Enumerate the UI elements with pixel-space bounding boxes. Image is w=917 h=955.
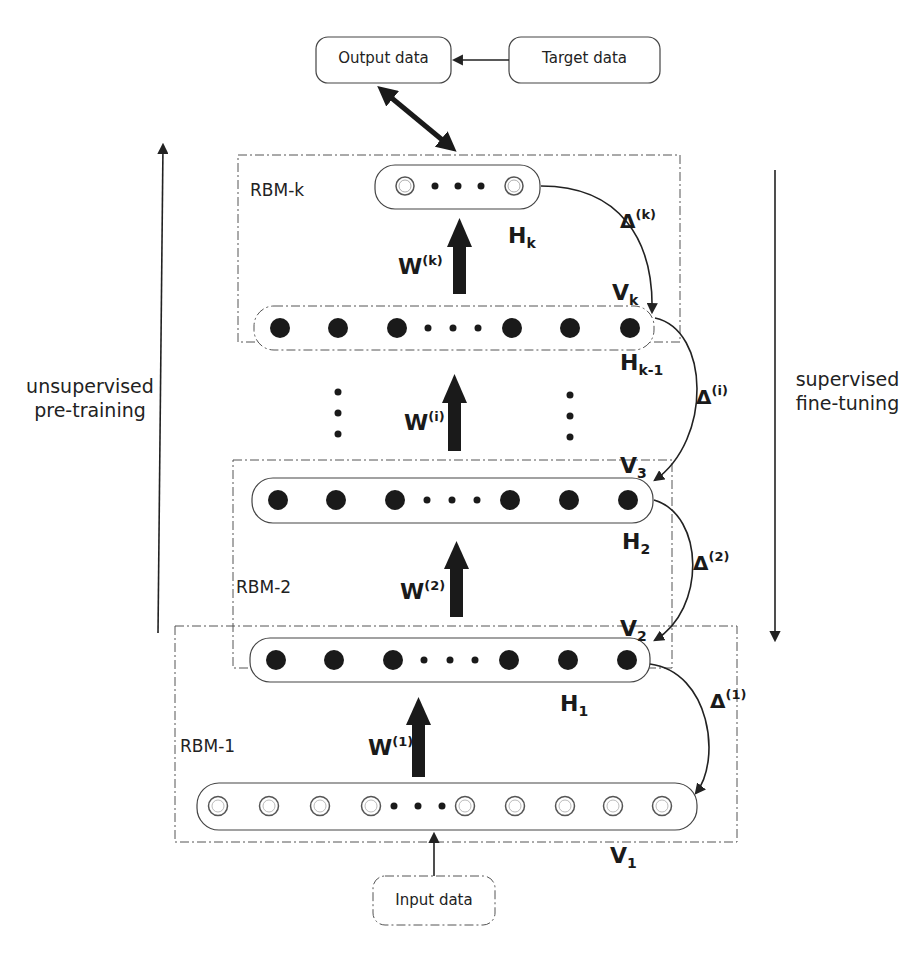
label-wk: W(k) (398, 254, 443, 278)
diagram-canvas (0, 0, 917, 955)
layer-h1 (250, 638, 650, 682)
weight-arrow-2 (444, 541, 469, 617)
label-hk-1: Hk-1 (620, 352, 663, 377)
label-delta-2: Δ(2) (693, 550, 729, 573)
rbm-1-label: RBM-1 (180, 738, 235, 755)
layer-h2 (252, 478, 653, 523)
label-w2: W(2) (400, 579, 445, 603)
label-wi: W(i) (404, 410, 445, 434)
label-v3: V3 (620, 455, 647, 480)
supervised-finetuning-label: supervised fine-tuning (785, 368, 910, 416)
label-delta-k: Δ(k) (620, 208, 656, 231)
label-delta-i: Δ(i) (696, 384, 728, 407)
left-label-line1: unsupervised (20, 375, 160, 399)
left-label-line2: pre-training (20, 399, 160, 423)
layer-hk (375, 165, 540, 209)
label-h2: H2 (622, 531, 650, 556)
right-label-line2: fine-tuning (785, 392, 910, 416)
label-v2: V2 (620, 618, 647, 643)
label-w1: W(1) (368, 735, 413, 759)
weight-arrow-k (447, 218, 472, 294)
unsupervised-pretraining-label: unsupervised pre-training (20, 375, 160, 423)
target-data-label: Target data (509, 51, 660, 66)
output-data-label: Output data (316, 51, 451, 66)
output-rbm-bidirectional-arrow (388, 95, 452, 148)
delta-arrow-2 (654, 500, 693, 640)
layer-hk-1 (254, 306, 654, 350)
label-hk: Hk (508, 225, 536, 250)
label-h1: H1 (560, 693, 588, 718)
label-v1: V1 (610, 845, 637, 870)
rbm-2-label: RBM-2 (236, 579, 291, 596)
label-delta-1: Δ(1) (710, 688, 746, 711)
label-vk: Vk (612, 282, 638, 307)
rbm-k-label: RBM-k (250, 182, 304, 199)
delta-arrow-1 (650, 664, 709, 793)
input-data-label: Input data (373, 893, 495, 908)
weight-arrow-i (442, 374, 467, 451)
layer-v1 (197, 783, 697, 830)
right-label-line1: supervised (785, 368, 910, 392)
vertical-ellipsis-right (567, 392, 574, 441)
vertical-ellipsis-left (335, 389, 342, 438)
